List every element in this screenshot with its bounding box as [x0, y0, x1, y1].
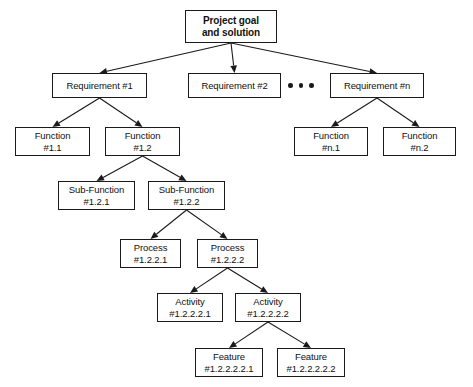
- node-label-primary: Feature: [295, 351, 327, 363]
- edge-process-2-to-activity-2: [228, 268, 269, 293]
- node-label-secondary: #1.2.2.2.1: [169, 308, 210, 320]
- node-label-secondary: #1.2.2: [174, 196, 200, 208]
- node-label-primary: Project goal: [203, 15, 259, 27]
- node-label-primary: Requirement #1: [66, 80, 132, 92]
- node-function-1-2: Function#1.2: [105, 127, 180, 156]
- node-requirement-1: Requirement #1: [52, 73, 147, 98]
- node-function-1-1: Function#1.1: [15, 127, 90, 156]
- node-label-primary: Feature: [213, 351, 245, 363]
- node-label-primary: Activity: [175, 296, 204, 308]
- edge-requirement-1-to-function-1-1: [53, 98, 100, 127]
- node-label-secondary: #1.2.2.1: [134, 254, 168, 266]
- node-label-primary: Requirement #2: [201, 80, 267, 92]
- node-process-1-2-2-1: Process#1.2.2.1: [120, 239, 181, 268]
- node-label-primary: Sub-Function: [69, 184, 124, 196]
- edge-requirement-1-to-function-1-2: [100, 98, 143, 127]
- node-label-secondary: #n.1: [322, 142, 340, 154]
- node-label-secondary: #1.2.2.2.2: [247, 308, 288, 320]
- node-label-secondary: #1.1: [43, 142, 61, 154]
- node-label-secondary: #n.2: [410, 142, 428, 154]
- node-label-secondary: #1.2.1: [84, 196, 110, 208]
- node-function-n-2: Function#n.2: [383, 127, 456, 156]
- ellipsis-dots: [288, 83, 314, 88]
- edge-function-1-2-to-sub-1-2-1: [97, 156, 143, 181]
- edge-activity-2-to-feature-1: [229, 322, 268, 348]
- edge-requirement-n-to-function-n-2: [377, 98, 420, 127]
- node-sub-function-1-2-2: Sub-Function#1.2.2: [148, 181, 225, 210]
- node-requirement-2: Requirement #2: [188, 73, 281, 98]
- node-label-secondary: #1.2.2.2.2.2: [287, 363, 336, 375]
- node-label-primary: Function: [125, 130, 161, 142]
- node-sub-function-1-2-1: Sub-Function#1.2.1: [58, 181, 135, 210]
- node-label-primary: Activity: [253, 296, 282, 308]
- node-label-secondary: and solution: [202, 27, 260, 39]
- edge-activity-2-to-feature-2: [268, 322, 311, 348]
- node-label-primary: Requirement #n: [344, 80, 410, 92]
- edge-sub-1-2-2-to-process-2: [187, 210, 228, 239]
- ellipsis-dot: [309, 83, 314, 88]
- edge-requirement-n-to-function-n-1: [331, 98, 377, 127]
- node-label-primary: Sub-Function: [159, 184, 214, 196]
- edge-root-to-requirement-2: [230, 43, 237, 73]
- node-label-secondary: #1.2.2.2: [211, 254, 245, 266]
- node-activity-1-2-2-2-2: Activity#1.2.2.2.2: [235, 293, 301, 322]
- edge-root-to-requirement-n: [231, 43, 377, 75]
- edge-root-to-requirement-1: [100, 43, 232, 75]
- edge-process-2-to-activity-1: [190, 268, 228, 293]
- node-requirement-n: Requirement #n: [330, 73, 424, 98]
- node-feature-1-2-2-2-2-1: Feature#1.2.2.2.2.1: [195, 348, 263, 377]
- node-label-primary: Function: [313, 130, 349, 142]
- node-activity-1-2-2-2-1: Activity#1.2.2.2.1: [157, 293, 223, 322]
- diagram-canvas: Project goaland solutionRequirement #1Re…: [0, 0, 473, 387]
- node-project-goal: Project goaland solution: [185, 10, 277, 43]
- node-label-primary: Function: [402, 130, 438, 142]
- ellipsis-dot: [299, 83, 304, 88]
- node-process-1-2-2-2: Process#1.2.2.2: [197, 239, 258, 268]
- node-label-secondary: #1.2: [133, 142, 151, 154]
- node-feature-1-2-2-2-2-2: Feature#1.2.2.2.2.2: [277, 348, 345, 377]
- node-function-n-1: Function#n.1: [294, 127, 368, 156]
- node-label-primary: Process: [211, 242, 245, 254]
- node-label-primary: Function: [35, 130, 71, 142]
- edge-sub-1-2-2-to-process-1: [151, 210, 187, 239]
- node-label-primary: Process: [134, 242, 168, 254]
- node-label-secondary: #1.2.2.2.2.1: [205, 363, 254, 375]
- edge-function-1-2-to-sub-1-2-2: [143, 156, 187, 181]
- ellipsis-dot: [288, 83, 293, 88]
